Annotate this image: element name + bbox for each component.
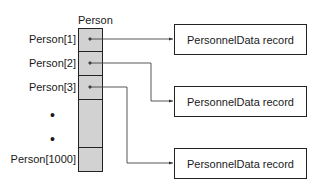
record-label: PersonnelData record [187,34,294,46]
record-label: PersonnelData record [187,158,294,170]
record-label: PersonnelData record [187,96,294,108]
record-box-3: PersonnelData record [174,148,307,179]
record-box-2: PersonnelData record [174,86,307,117]
record-box-1: PersonnelData record [174,24,307,55]
